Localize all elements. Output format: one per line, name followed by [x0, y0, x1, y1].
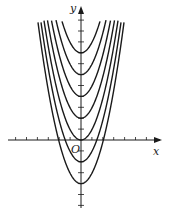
parabola-family-chart: y x O — [0, 0, 169, 217]
axes — [8, 6, 162, 208]
x-axis-arrow-icon — [154, 137, 162, 143]
origin-label: O — [71, 143, 80, 156]
x-axis-label: x — [153, 145, 160, 158]
y-axis-label: y — [69, 2, 77, 15]
y-axis-arrow-icon — [78, 6, 84, 14]
